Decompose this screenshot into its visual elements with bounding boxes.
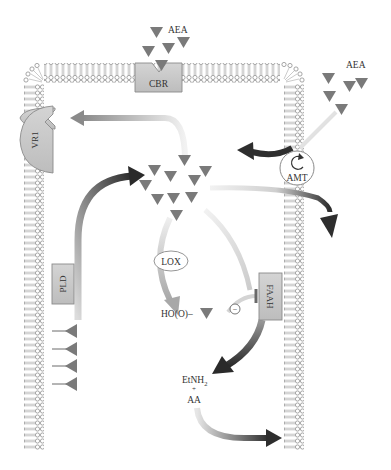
ho-o-label: HO(O)–	[161, 309, 193, 320]
inhibition-sign: −	[230, 304, 240, 314]
aa-label: AA	[187, 395, 201, 405]
arrow-pool-to-amt-out	[210, 188, 338, 238]
arrow-pool-to-faah	[205, 210, 250, 290]
faah-label: FAAH	[265, 285, 275, 309]
lox-label: LOX	[161, 257, 181, 267]
membrane-corner-left	[24, 63, 44, 84]
aea-top-label: AEA	[168, 25, 188, 35]
aea-pool-intracellular	[139, 155, 212, 221]
cbr-label: CBR	[149, 79, 169, 89]
amt-label: AMT	[286, 173, 307, 183]
hydroperoxy-aea: HO(O)–	[161, 308, 213, 320]
svg-text:−: −	[233, 305, 238, 314]
faah-enzyme[interactable]: FAAH	[259, 273, 282, 320]
pld-enzyme[interactable]: PLD	[52, 264, 74, 304]
arrow-aa-to-membrane	[197, 408, 282, 447]
aea-right-label: AEA	[346, 60, 366, 70]
arrow-aea-to-amt	[300, 112, 336, 148]
arrow-pld-to-pool	[78, 166, 145, 320]
arrow-pool-to-vr1	[70, 110, 185, 160]
nape-precursors	[52, 324, 77, 391]
membrane-corner-right	[280, 62, 304, 84]
lox-enzyme[interactable]: LOX	[154, 251, 188, 271]
plus-sign: +	[192, 385, 196, 393]
amt-transporter[interactable]: AMT	[280, 151, 314, 185]
vr1-label: VR1	[30, 131, 40, 148]
arrow-faah-to-products	[212, 320, 262, 374]
aea-cluster-extracellular	[322, 73, 368, 115]
faah-products: EtNH2 + AA	[182, 375, 207, 405]
endocannabinoid-diagram: CBR AMT PLD FAAH LOX VR1 AEA	[0, 0, 391, 470]
pld-label: PLD	[58, 275, 68, 293]
